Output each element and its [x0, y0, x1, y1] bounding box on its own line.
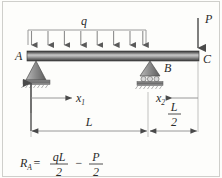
equation-term1-denominator: 2 — [56, 165, 62, 178]
equation-term1-numerator: qL — [53, 150, 66, 164]
coordinate-x1-label: x1 — [75, 91, 85, 107]
equation-equals-sign: = — [34, 156, 41, 170]
point-load-group: P — [198, 12, 213, 48]
equation-minus-operator: − — [76, 156, 83, 170]
point-load-label: P — [204, 12, 213, 26]
support-a-base — [23, 80, 50, 85]
reaction-equation: RA = qL 2 − P 2 — [19, 150, 103, 178]
figure-border — [3, 2, 220, 177]
distributed-load-label: q — [81, 14, 87, 28]
support-b-triangle — [140, 61, 160, 76]
support-a-hatching — [22, 85, 49, 89]
beam-member — [27, 51, 199, 61]
distributed-load-outline — [28, 30, 146, 45]
equation-reaction-symbol: RA — [19, 156, 32, 172]
point-a-label: A — [14, 49, 23, 63]
point-c-label: C — [203, 52, 212, 66]
support-b-roller: B — [136, 61, 173, 89]
point-c-group: C — [198, 52, 212, 132]
dimension-L-group: L — [32, 115, 147, 131]
dimension-L-half-denominator: 2 — [171, 115, 177, 129]
point-b-label: B — [164, 61, 172, 75]
beam-diagram-svg: q P A — [0, 0, 222, 178]
dimension-L-label: L — [85, 115, 93, 129]
distributed-load-group: q — [28, 14, 146, 45]
support-b-base — [137, 82, 163, 86]
support-b-hatching — [136, 86, 163, 90]
support-a-triangle — [26, 61, 46, 80]
equation-term2-numerator: P — [91, 150, 100, 164]
coordinate-x1-group: x1 — [31, 91, 85, 107]
beam-diagram-figure: q P A — [0, 0, 222, 178]
coordinate-x2-label: x2 — [155, 91, 165, 107]
dimension-L-half-numerator: L — [170, 100, 178, 114]
distributed-load-arrows — [32, 31, 143, 45]
support-b-rollers — [141, 76, 159, 81]
equation-term2-denominator: 2 — [93, 165, 99, 178]
